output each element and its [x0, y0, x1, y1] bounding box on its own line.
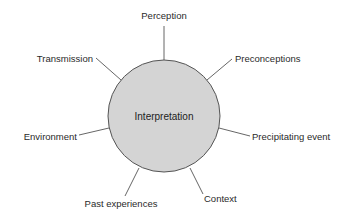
- label-past-experiences: Past experiences: [85, 198, 158, 209]
- label-preconceptions: Preconceptions: [235, 53, 301, 64]
- label-precipitating-event: Precipitating event: [252, 131, 331, 142]
- line-preconceptions: [207, 59, 232, 80]
- line-environment: [79, 128, 109, 135]
- label-environment: Environment: [24, 131, 78, 142]
- line-context: [190, 168, 203, 194]
- label-transmission: Transmission: [37, 53, 93, 64]
- label-context: Context: [204, 193, 237, 204]
- line-precipitating-event: [219, 128, 250, 136]
- interpretation-diagram: Interpretation Perception Preconceptions…: [0, 0, 355, 216]
- diagram-canvas: Interpretation Perception Preconceptions…: [0, 0, 355, 216]
- line-transmission: [96, 58, 121, 80]
- line-past-experiences: [125, 168, 139, 196]
- center-label: Interpretation: [135, 111, 194, 122]
- label-perception: Perception: [141, 10, 186, 21]
